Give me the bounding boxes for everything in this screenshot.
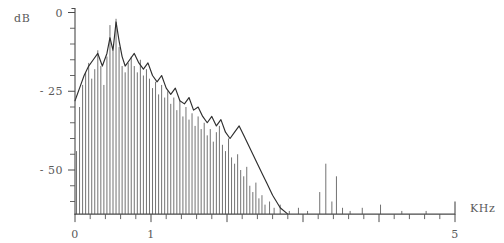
y-tick-label-0: 0 (56, 7, 64, 20)
x-tick-label-5: 5 (451, 228, 459, 241)
y-axis-title: dB (14, 12, 30, 25)
x-axis-title: KHz (470, 202, 495, 215)
x-tick-label-1: 1 (147, 228, 155, 241)
spike-series-group (77, 19, 427, 214)
y-axis-group (68, 9, 75, 215)
axis-labels-group: 0 - 25 - 50 0 1 5 dB KHz (14, 7, 495, 242)
y-tick-label-minus25: - 25 (40, 85, 63, 98)
spectrum-chart-svg: 0 - 25 - 50 0 1 5 dB KHz (0, 0, 504, 243)
x-tick-label-0: 0 (71, 228, 79, 241)
y-tick-label-minus50: - 50 (40, 164, 63, 177)
spectrum-figure: 0 - 25 - 50 0 1 5 dB KHz (0, 0, 504, 243)
y-axis-line (72, 9, 75, 215)
y-axis-ticks (68, 13, 75, 202)
x-axis-ticks (75, 214, 455, 222)
